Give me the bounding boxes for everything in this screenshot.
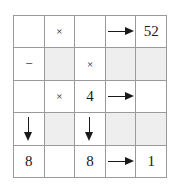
arrow-shaft [89, 117, 90, 133]
cell-r4c2[interactable] [45, 113, 76, 145]
cell-r3c1[interactable] [14, 81, 45, 113]
arrow-head [125, 92, 134, 100]
arrow-head [24, 132, 32, 141]
arrow-head [125, 157, 134, 165]
cell-value: 4 [86, 89, 94, 104]
cell-r2c2[interactable] [45, 48, 76, 80]
arrow-head [85, 132, 93, 141]
arrow-right-icon [108, 27, 134, 36]
cell-r2c5[interactable] [136, 48, 167, 80]
cell-r2c3[interactable]: × [75, 48, 106, 80]
cell-r1c4[interactable] [106, 16, 137, 48]
multiply-operator: × [87, 59, 93, 70]
cell-r3c5[interactable] [136, 81, 167, 113]
cell-r4c1[interactable] [14, 113, 45, 145]
arrow-shaft [108, 31, 125, 32]
cell-r4c3[interactable] [75, 113, 106, 145]
cell-r5c1[interactable]: 8 [14, 146, 45, 178]
minus-operator: − [25, 57, 32, 70]
arrow-down-icon [24, 117, 33, 141]
cell-value: 8 [25, 154, 33, 169]
arrow-shaft [108, 96, 125, 97]
arrow-down-icon [85, 117, 94, 141]
arrow-right-icon [108, 92, 134, 101]
arrow-head [125, 27, 134, 35]
cell-r3c3[interactable]: 4 [75, 81, 106, 113]
cell-r5c3[interactable]: 8 [75, 146, 106, 178]
cell-r1c5[interactable]: 52 [136, 16, 167, 48]
cell-r2c4[interactable] [106, 48, 137, 80]
cell-value: 1 [147, 154, 155, 169]
cell-r5c5[interactable]: 1 [136, 146, 167, 178]
cell-r1c1[interactable] [14, 16, 45, 48]
cell-r4c5[interactable] [136, 113, 167, 145]
multiply-operator: × [56, 91, 62, 102]
cell-r2c1[interactable]: − [14, 48, 45, 80]
cell-r5c2[interactable] [45, 146, 76, 178]
cell-value: 52 [144, 24, 159, 39]
cell-r1c2[interactable]: × [45, 16, 76, 48]
cell-r5c4[interactable] [106, 146, 137, 178]
cell-r4c4[interactable] [106, 113, 137, 145]
cell-r3c4[interactable] [106, 81, 137, 113]
arithmetic-puzzle-grid: ×52−××4881 [13, 15, 167, 178]
multiply-operator: × [56, 26, 62, 37]
cell-value: 8 [86, 154, 94, 169]
cell-r3c2[interactable]: × [45, 81, 76, 113]
arrow-shaft [28, 117, 29, 133]
arrow-shaft [108, 161, 125, 162]
arrow-right-icon [108, 157, 134, 166]
cell-r1c3[interactable] [75, 16, 106, 48]
